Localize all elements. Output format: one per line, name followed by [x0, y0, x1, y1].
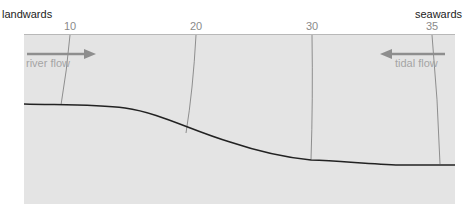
- estuary-diagram: 10 20 30 35 river flow tidal flow: [0, 0, 470, 207]
- isohaline-line-20: [186, 35, 196, 133]
- isohaline-label-10: 10: [64, 20, 76, 32]
- isohaline-line-10: [61, 35, 70, 105]
- isohaline-label-20: 20: [190, 20, 202, 32]
- isohaline-line-30: [311, 35, 312, 160]
- isohaline-label-30: 30: [306, 20, 318, 32]
- tidal-flow-label: tidal flow: [395, 57, 438, 69]
- isohaline-label-35: 35: [426, 20, 438, 32]
- river-bed-line: [24, 104, 455, 165]
- river-flow-label: river flow: [26, 57, 70, 69]
